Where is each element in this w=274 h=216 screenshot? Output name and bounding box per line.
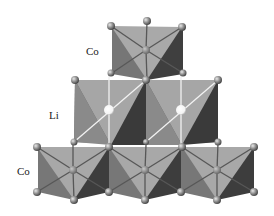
co-octahedron-top bbox=[111, 22, 183, 80]
label-co-bottom: Co bbox=[17, 165, 30, 177]
li-atom bbox=[176, 105, 186, 115]
co-octahedron-bottom-3 bbox=[181, 143, 254, 200]
co-atom bbox=[69, 166, 77, 174]
co-octahedron-bottom-1 bbox=[37, 143, 109, 200]
co-octahedron-bottom-2 bbox=[109, 145, 182, 200]
li-octahedron-right bbox=[146, 73, 218, 145]
label-li: Li bbox=[49, 109, 59, 121]
label-co-top: Co bbox=[86, 45, 99, 57]
li-octahedron-left bbox=[74, 73, 146, 145]
licoo2-structure-diagram bbox=[0, 0, 274, 216]
li-atom bbox=[104, 105, 114, 115]
co-atom bbox=[213, 166, 221, 174]
co-atom bbox=[142, 46, 150, 54]
co-atom bbox=[141, 166, 149, 174]
